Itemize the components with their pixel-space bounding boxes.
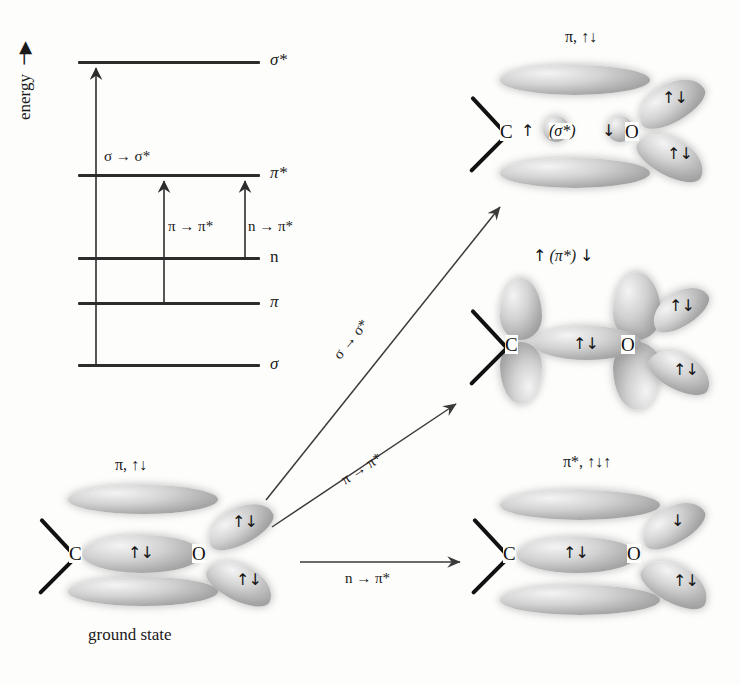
- ground-state-pi-lobe-lower: [68, 577, 218, 606]
- sigma-sigma-star-state-structure: π, ↑↓ C O ↑ (σ*) ↓ ↑↓ ↑↓: [455, 30, 730, 230]
- n-state-pi-star-lobe-lower: [500, 585, 660, 615]
- sigma-state-pi-lobe-upper: [500, 65, 650, 95]
- pi-state-orbital-label: (π*): [549, 247, 576, 264]
- pi-state-atom-oxygen: O: [621, 335, 635, 354]
- pi-state-carbon-p-lobe-upper: [500, 278, 542, 340]
- n-state-top-label: π*, ↑↓↑: [563, 453, 611, 471]
- n-state-lone-pair-spin-upper: ↓: [671, 511, 683, 530]
- sigma-state-top-label: π, ↑↓: [565, 28, 597, 46]
- pi-state-top-label-wrap: ↑ (π*) ↓: [533, 246, 592, 265]
- ground-state-atom-oxygen: O: [192, 544, 206, 563]
- pi-state-lone-pair-spin-upper: ↑↓: [669, 296, 694, 315]
- ground-state-lone-pair-spin-lower: ↑↓: [236, 570, 261, 589]
- sigma-state-spin-up: ↑: [521, 121, 533, 140]
- ground-state-caption: ground state: [88, 625, 172, 645]
- n-pi-star-state-structure: π*, ↑↓↑ C O ↑↓ ↓ ↑↓: [455, 455, 730, 655]
- ground-state-top-label: π, ↑↓: [115, 456, 147, 474]
- sigma-state-spin-down: ↓: [602, 121, 614, 140]
- sigma-state-atom-carbon: C: [500, 122, 513, 141]
- pi-state-atom-carbon: C: [505, 335, 518, 354]
- pi-state-spin-down: ↓: [580, 246, 592, 265]
- ground-state-sigma-spin: ↑↓: [128, 543, 153, 562]
- pi-state-spin-up: ↑: [533, 246, 545, 265]
- pi-state-sigma-spin: ↑↓: [573, 334, 598, 353]
- n-state-sigma-spin: ↑↓: [563, 543, 588, 562]
- pi-pi-star-state-structure: ↑ (π*) ↓ C O ↑↓ ↑↓ ↑↓: [455, 250, 730, 430]
- n-state-atom-oxygen: O: [627, 544, 641, 563]
- n-state-lone-pair-spin-lower: ↑↓: [673, 571, 698, 590]
- n-state-atom-carbon: C: [503, 544, 516, 563]
- sigma-state-pi-lobe-lower: [500, 158, 650, 188]
- ground-state-atom-carbon: C: [69, 544, 82, 563]
- diagram-canvas: energy ─▶ σ* π* n π σ σ →: [0, 0, 740, 685]
- n-state-pi-star-lobe-upper: [500, 490, 660, 520]
- pi-state-lone-pair-spin-lower: ↑↓: [673, 360, 698, 379]
- sigma-state-lone-pair-spin-upper: ↑↓: [662, 88, 687, 107]
- sigma-state-atom-oxygen: O: [625, 122, 639, 141]
- ground-state-structure: π, ↑↓ C O ↑↓ ↑↓ ↑↓ ground state: [20, 460, 290, 680]
- ground-state-pi-lobe-upper: [68, 485, 218, 514]
- ground-state-lone-pair-spin-upper: ↑↓: [232, 512, 257, 531]
- process-arrow-label-n-pi-star: n → π*: [345, 570, 390, 587]
- sigma-state-orbital-label: (σ*): [549, 123, 576, 139]
- sigma-state-lone-pair-spin-lower: ↑↓: [667, 144, 692, 163]
